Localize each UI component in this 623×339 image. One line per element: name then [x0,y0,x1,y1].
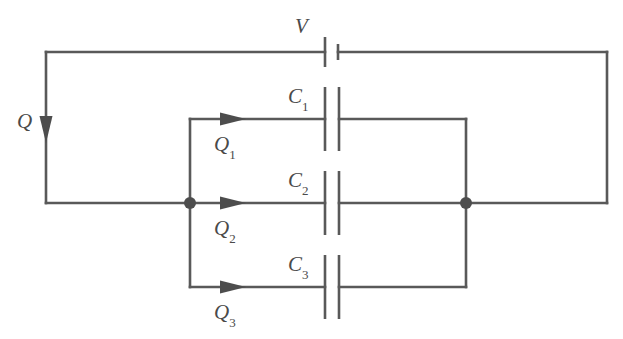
label-total-charge: Q [17,111,32,132]
current-arrow-q-total [40,116,53,143]
label-capacitor-2-subscript: 2 [302,183,309,198]
label-capacitor-3-subscript: 3 [302,267,309,282]
junction-node-right [460,197,472,209]
label-capacitor-3-text: C [288,252,302,276]
label-capacitor-1-text: C [288,84,302,108]
label-charge-2-subscript: 2 [229,231,236,246]
label-capacitor-1: C1 [288,86,309,110]
current-arrow-q2 [220,197,246,210]
junction-node-left [184,197,196,209]
label-charge-2-text: Q [214,216,229,240]
circuit-diagram: V Q C1 C2 C3 Q1 Q2 Q3 [0,0,623,339]
label-source-voltage-text: V [295,14,308,38]
circuit-svg [0,0,623,339]
label-charge-3-subscript: 3 [229,315,236,330]
label-capacitor-3: C3 [288,254,309,278]
current-arrow-q3 [220,281,246,294]
current-arrow-q1 [220,113,246,126]
label-charge-3: Q3 [214,302,236,326]
label-charge-1-subscript: 1 [229,147,236,162]
label-capacitor-2: C2 [288,170,309,194]
label-charge-1-text: Q [214,132,229,156]
label-capacitor-1-subscript: 1 [302,99,309,114]
label-total-charge-text: Q [17,109,32,133]
label-capacitor-2-text: C [288,168,302,192]
label-charge-3-text: Q [214,300,229,324]
label-charge-1: Q1 [214,134,236,158]
label-source-voltage: V [295,16,308,37]
label-charge-2: Q2 [214,218,236,242]
